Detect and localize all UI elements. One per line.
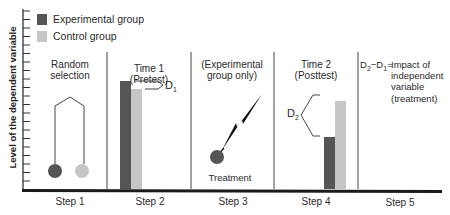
step2-title: Time 1 (Pretest) bbox=[130, 63, 168, 85]
control-group-circle bbox=[75, 164, 89, 178]
step-label-1: Step 1 bbox=[56, 196, 85, 207]
d2-annotation: D2 bbox=[287, 107, 299, 122]
pretest-bar-experimental bbox=[120, 81, 131, 189]
legend-swatch-experimental bbox=[37, 14, 47, 25]
d1-annotation: D1 bbox=[165, 79, 177, 94]
random-selection-tree bbox=[55, 97, 84, 164]
x-axis bbox=[22, 191, 442, 192]
step-label-4: Step 4 bbox=[302, 196, 331, 207]
research-design-diagram: Level of the dependent variable Experime… bbox=[0, 0, 450, 215]
step5-formula: D2−D1= bbox=[360, 59, 393, 73]
d2-bracket bbox=[301, 95, 320, 136]
step-label-3: Step 3 bbox=[219, 196, 248, 207]
experimental-group-circle bbox=[48, 164, 62, 178]
treated-experimental-circle bbox=[210, 150, 224, 164]
treatment-caption: Treatment bbox=[209, 173, 252, 183]
step5-description: Impact of independent variable (treatmen… bbox=[391, 59, 443, 104]
legend-label-experimental: Experimental group bbox=[53, 14, 144, 26]
pretest-bar-control bbox=[131, 89, 142, 189]
posttest-bar-control bbox=[335, 101, 346, 189]
step-label-5: Step 5 bbox=[386, 197, 415, 208]
step-label-2: Step 2 bbox=[136, 196, 165, 207]
y-axis-label: Level of the dependent variable bbox=[7, 18, 18, 178]
y-axis-ticks bbox=[23, 11, 30, 181]
step1-title: Random selection bbox=[50, 59, 89, 81]
legend-swatch-control bbox=[37, 31, 47, 42]
legend-label-control: Control group bbox=[53, 31, 117, 43]
step4-title: Time 2 (Posttest) bbox=[295, 59, 338, 81]
lightning-bolt-icon bbox=[222, 94, 262, 150]
posttest-bar-experimental bbox=[324, 137, 335, 189]
step3-title: (Experimental group only) bbox=[201, 59, 263, 81]
